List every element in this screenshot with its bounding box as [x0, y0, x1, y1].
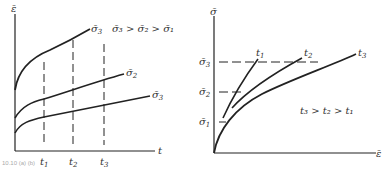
curve-sigma3-top [15, 29, 90, 90]
t1-label: t1 [40, 156, 49, 169]
left-panel-strain-vs-time [15, 14, 155, 151]
curve-t1-label: t1 [256, 47, 265, 60]
left-relation-text: σ̄₃ > σ̄₂ > σ̄₁ [112, 23, 174, 34]
t3-label: t3 [100, 156, 109, 169]
right-panel-labels: σ̄ ε̄ σ̄3 σ̄2 σ̄1 t1 t2 t3 t₃ > t₂ > t₁ [199, 6, 381, 159]
left-panel-labels: ε̄ t σ̄3 σ̄2 σ̄3 σ̄₃ > σ̄₂ > σ̄₁ t1 t2 t… [11, 3, 174, 169]
creep-diagram: ε̄ t σ̄3 σ̄2 σ̄3 σ̄₃ > σ̄₂ > σ̄₁ t1 t2 t… [0, 0, 385, 173]
curve-label-bottom: σ̄3 [152, 89, 164, 102]
right-relation-text: t₃ > t₂ > t₁ [300, 105, 354, 116]
curve-t2-label: t2 [304, 47, 313, 60]
t2-label: t2 [69, 156, 78, 169]
left-y-axis-label: ε̄ [11, 3, 16, 14]
curve-label-middle: σ̄2 [126, 67, 138, 80]
sigma1-label: σ̄1 [199, 116, 210, 129]
curve-t3-label: t3 [358, 47, 367, 60]
right-y-axis-label: σ̄ [210, 6, 218, 17]
right-panel-stress-vs-strain [214, 16, 376, 153]
figure-caption: 10.10 (a) (b) [2, 160, 35, 166]
curve-label-top: σ̄3 [91, 23, 103, 36]
sigma2-label: σ̄2 [199, 86, 211, 99]
sigma3-label: σ̄3 [199, 56, 211, 69]
left-x-axis-label: t [158, 145, 163, 156]
right-x-axis-label: ε̄ [376, 148, 381, 159]
